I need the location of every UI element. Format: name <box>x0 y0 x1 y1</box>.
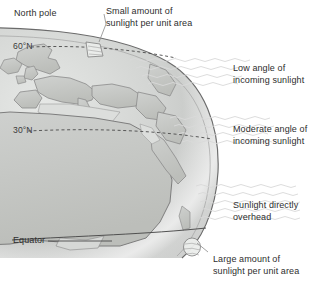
latitude-label-30n: 30°N <box>13 125 33 135</box>
label-moderate-angle-line2: incoming sunlight <box>233 136 304 148</box>
label-large-amount-line2: sunlight per unit area <box>213 266 299 278</box>
latitude-label-equator: Equator <box>13 235 45 247</box>
label-direct-overhead-line2: overhead <box>233 212 271 224</box>
diagram-canvas: North pole Small amount of sunlight per … <box>0 0 329 283</box>
label-low-angle-line1: Low angle of <box>233 63 285 75</box>
label-low-angle-line2: incoming sunlight <box>233 75 304 87</box>
label-north-pole: North pole <box>14 8 57 20</box>
latitude-label-60n: 60°N <box>13 41 33 51</box>
label-large-amount-line1: Large amount of <box>213 254 280 266</box>
label-small-amount-line2: sunlight per unit area <box>106 18 192 30</box>
beam-footprint-equator <box>184 238 201 256</box>
label-small-amount-line1: Small amount of <box>106 6 173 18</box>
label-moderate-angle-line1: Moderate angle of <box>233 124 307 136</box>
beam-footprint-60n <box>86 42 103 57</box>
label-direct-overhead-line1: Sunlight directly <box>233 200 298 212</box>
